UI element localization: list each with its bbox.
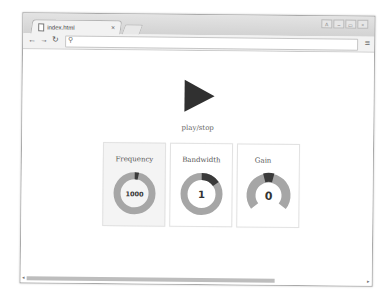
gain-value: 0 xyxy=(265,190,273,203)
back-arrow-icon[interactable]: ← xyxy=(28,35,36,45)
gain-title: Gain xyxy=(238,156,299,165)
close-window-button[interactable]: × xyxy=(357,20,368,29)
play-stop-label: play/stop xyxy=(22,122,373,134)
menu-icon[interactable]: ≡ xyxy=(365,38,370,49)
minimize-button[interactable]: – xyxy=(333,19,344,28)
page-content: play/stop Frequency 1000 Bandwidth 1 xyxy=(21,49,374,278)
frequency-card: Frequency 1000 xyxy=(102,142,166,227)
bandwidth-gauge[interactable]: 1 xyxy=(178,171,224,217)
page-icon xyxy=(38,23,44,31)
tab-title: index.html xyxy=(47,24,74,30)
scroll-left-icon[interactable]: ◂ xyxy=(22,274,25,280)
browser-window: index.html × A – ▭ × ← → ↻ ⚲ ≡ play/stop… xyxy=(20,12,376,287)
gain-card: Gain 0 xyxy=(236,143,300,228)
frequency-title: Frequency xyxy=(104,155,165,164)
bandwidth-title: Bandwidth xyxy=(171,156,232,165)
play-stop-button[interactable] xyxy=(184,80,214,112)
window-controls: A – ▭ × xyxy=(321,19,368,28)
search-icon: ⚲ xyxy=(68,36,73,44)
reload-icon[interactable]: ↻ xyxy=(52,35,59,45)
maximize-button[interactable]: ▭ xyxy=(345,20,356,29)
profile-icon[interactable]: A xyxy=(321,19,332,28)
scroll-right-icon[interactable]: ▸ xyxy=(367,278,370,284)
scrollbar-thumb[interactable] xyxy=(27,276,275,283)
controls-row: Frequency 1000 Bandwidth 1 Gain xyxy=(102,142,300,228)
forward-arrow-icon[interactable]: → xyxy=(40,35,48,45)
bandwidth-value: 1 xyxy=(198,189,205,200)
frequency-gauge[interactable]: 1000 xyxy=(111,170,157,216)
tab-close-icon[interactable]: × xyxy=(111,24,115,31)
frequency-value: 1000 xyxy=(125,190,144,198)
address-bar[interactable]: ⚲ xyxy=(65,36,358,51)
bandwidth-card: Bandwidth 1 xyxy=(169,143,233,228)
gain-gauge[interactable]: 0 xyxy=(245,172,291,218)
